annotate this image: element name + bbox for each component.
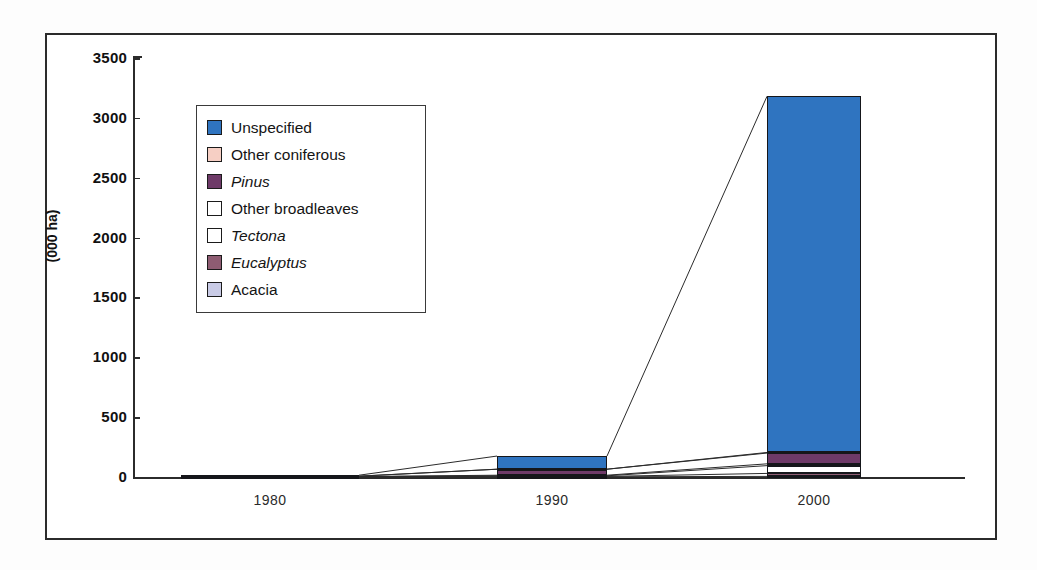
y-tick-label: 1000 bbox=[93, 348, 127, 365]
bar-segment-unspecified[interactable] bbox=[767, 96, 861, 452]
y-tick-mark bbox=[133, 238, 140, 240]
bar-segment-other-broadleaves[interactable] bbox=[497, 475, 607, 477]
legend-item-acacia[interactable]: Acacia bbox=[207, 276, 415, 303]
chart-page: (000 ha) 0500100015002000250030003500 19… bbox=[0, 0, 1037, 570]
legend-item-pinus[interactable]: Pinus bbox=[207, 168, 415, 195]
legend-swatch-icon bbox=[207, 255, 222, 270]
legend-label: Acacia bbox=[231, 281, 278, 299]
x-tick-label-2000: 2000 bbox=[754, 492, 874, 508]
legend-label: Eucalyptus bbox=[231, 254, 307, 272]
chart-legend: UnspecifiedOther coniferousPinusOther br… bbox=[196, 105, 426, 313]
y-tick-label: 500 bbox=[101, 408, 127, 425]
legend-swatch-icon bbox=[207, 201, 222, 216]
legend-label: Other broadleaves bbox=[231, 200, 359, 218]
y-tick-mark bbox=[133, 357, 140, 359]
legend-item-other-broadleaves[interactable]: Other broadleaves bbox=[207, 195, 415, 222]
bar-segment-unspecified[interactable] bbox=[181, 475, 359, 477]
legend-item-unspecified[interactable]: Unspecified bbox=[207, 114, 415, 141]
y-tick-label: 2500 bbox=[93, 169, 127, 186]
bar-2000[interactable] bbox=[767, 96, 861, 477]
y-tick-mark bbox=[133, 417, 140, 419]
legend-label: Other coniferous bbox=[231, 146, 346, 164]
y-axis-line bbox=[133, 56, 135, 479]
legend-label: Tectona bbox=[231, 227, 286, 245]
y-tick-mark bbox=[133, 178, 140, 180]
y-tick-label: 0 bbox=[118, 468, 127, 485]
legend-item-other-coniferous[interactable]: Other coniferous bbox=[207, 141, 415, 168]
y-tick-label: 2000 bbox=[93, 229, 127, 246]
y-tick-mark bbox=[133, 477, 140, 479]
x-tick-label-1990: 1990 bbox=[492, 492, 612, 508]
y-tick-label: 3500 bbox=[93, 49, 127, 66]
legend-swatch-icon bbox=[207, 228, 222, 243]
legend-label: Unspecified bbox=[231, 119, 312, 137]
y-tick-label: 1500 bbox=[93, 288, 127, 305]
bar-segment-other-coniferous[interactable] bbox=[767, 452, 861, 454]
legend-swatch-icon bbox=[207, 282, 222, 297]
x-tick-label-1980: 1980 bbox=[210, 492, 330, 508]
legend-label: Pinus bbox=[231, 173, 270, 191]
y-tick-mark bbox=[133, 118, 140, 120]
legend-item-eucalyptus[interactable]: Eucalyptus bbox=[207, 249, 415, 276]
bar-segment-tectona[interactable] bbox=[767, 466, 861, 474]
bar-segment-acacia[interactable] bbox=[767, 476, 861, 478]
bar-segment-other-coniferous[interactable] bbox=[497, 469, 607, 471]
legend-swatch-icon bbox=[207, 147, 222, 162]
y-tick-mark bbox=[133, 297, 140, 299]
bar-1980[interactable] bbox=[181, 475, 359, 477]
bar-segment-other-broadleaves[interactable] bbox=[767, 464, 861, 466]
bar-segment-unspecified[interactable] bbox=[497, 456, 607, 469]
legend-swatch-icon bbox=[207, 174, 222, 189]
y-axis-title: (000 ha) bbox=[44, 210, 60, 263]
bar-1990[interactable] bbox=[497, 456, 607, 477]
legend-item-tectona[interactable]: Tectona bbox=[207, 222, 415, 249]
y-tick-mark bbox=[133, 58, 140, 60]
bar-segment-eucalyptus[interactable] bbox=[767, 473, 861, 476]
legend-swatch-icon bbox=[207, 120, 222, 135]
y-axis-tick-labels: 0500100015002000250030003500 bbox=[60, 0, 127, 570]
y-tick-label: 3000 bbox=[93, 109, 127, 126]
bar-segment-pinus[interactable] bbox=[767, 453, 861, 464]
